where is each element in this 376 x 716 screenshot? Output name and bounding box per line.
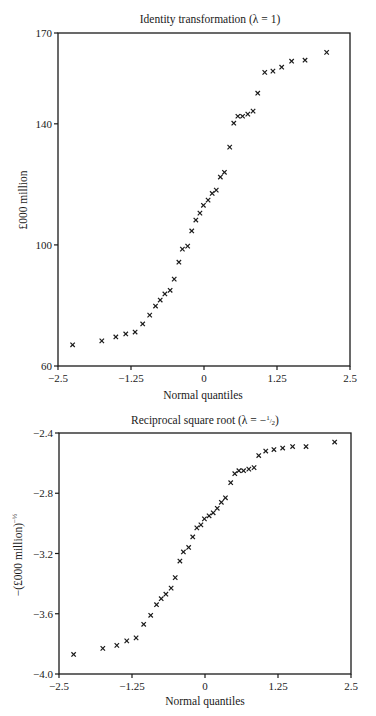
y-tick-label: −3.6 [33, 608, 53, 620]
data-point-x-marker [195, 526, 199, 530]
data-point-x-marker [115, 643, 119, 647]
data-point-x-marker [159, 596, 163, 600]
data-point-x-marker [148, 613, 152, 617]
data-point-x-marker [101, 646, 105, 650]
data-point-x-marker [186, 545, 190, 549]
data-point-x-marker [134, 636, 138, 640]
data-point-x-marker [252, 465, 256, 469]
data-point-x-marker [169, 586, 173, 590]
data-point-x-marker [158, 298, 162, 302]
data-point-x-marker [201, 203, 205, 207]
x-tick-label: −1.25 [119, 680, 145, 692]
data-point-x-marker [153, 304, 157, 308]
data-point-x-marker [133, 330, 137, 334]
y-tick-label: −2.8 [33, 487, 53, 499]
data-point-x-marker [180, 247, 184, 251]
data-point-x-marker [279, 65, 283, 69]
data-point-x-marker [289, 59, 293, 63]
data-point-x-marker [218, 175, 222, 179]
figure: Identity transformation (λ = 1) 60100140… [0, 0, 376, 716]
data-point-x-marker [177, 260, 181, 264]
data-point-x-marker [191, 535, 195, 539]
data-point-x-marker [228, 481, 232, 485]
data-point-x-marker [173, 575, 177, 579]
x-tick-label: 1.25 [267, 372, 287, 384]
chart-reciprocal-sqrt: Reciprocal square root (λ = −1/2) −4.0−3… [11, 414, 358, 708]
data-point-x-marker [264, 449, 268, 453]
x-tick-label: −2.5 [48, 372, 68, 384]
data-point-x-marker [271, 69, 275, 73]
plot-frame [59, 433, 351, 674]
x-axis-ticks: −2.5−1.2501.252.5 [49, 674, 358, 692]
y-tick-label: −3.2 [33, 548, 53, 560]
data-point-x-marker [232, 121, 236, 125]
data-point-x-marker [215, 506, 219, 510]
data-point-x-marker [141, 622, 145, 626]
y-axis-label: £000 million [17, 170, 29, 229]
data-point-x-marker [163, 292, 167, 296]
data-point-x-marker [140, 322, 144, 326]
data-point-x-marker [324, 50, 328, 54]
data-point-x-marker [207, 514, 211, 518]
data-point-x-marker [303, 58, 307, 62]
data-point-x-marker [124, 332, 128, 336]
data-point-x-marker [147, 313, 151, 317]
data-point-x-marker [247, 467, 251, 471]
data-points [71, 440, 336, 657]
data-point-x-marker [227, 145, 231, 149]
data-point-x-marker [214, 188, 218, 192]
data-point-x-marker [70, 343, 74, 347]
chart-identity: Identity transformation (λ = 1) 60100140… [17, 13, 357, 402]
data-point-x-marker [290, 444, 294, 448]
data-point-x-marker [240, 114, 244, 118]
data-point-x-marker [164, 592, 168, 596]
data-point-x-marker [256, 91, 260, 95]
chart-title: Reciprocal square root (λ = −1/2) [131, 414, 279, 427]
data-point-x-marker [178, 559, 182, 563]
x-tick-label: 0 [202, 680, 208, 692]
data-point-x-marker [257, 453, 261, 457]
data-point-x-marker [211, 511, 215, 515]
data-point-x-marker [219, 500, 223, 504]
y-tick-label: −4.0 [33, 668, 53, 680]
data-point-x-marker [263, 70, 267, 74]
data-point-x-marker [237, 468, 241, 472]
data-points [70, 50, 328, 347]
data-point-x-marker [198, 211, 202, 215]
x-tick-label: 1.25 [268, 680, 288, 692]
data-point-x-marker [222, 170, 226, 174]
x-tick-label: 2.5 [343, 372, 357, 384]
y-tick-label: −2.4 [33, 427, 53, 439]
x-axis-label: Normal quantiles [163, 389, 243, 402]
y-tick-label: 140 [36, 118, 53, 130]
data-point-x-marker [233, 471, 237, 475]
data-point-x-marker [114, 335, 118, 339]
data-point-x-marker [190, 229, 194, 233]
data-point-x-marker [206, 198, 210, 202]
chart-title: Identity transformation (λ = 1) [140, 13, 281, 26]
x-tick-label: 0 [201, 372, 207, 384]
data-point-x-marker [154, 603, 158, 607]
y-axis-ticks: −4.0−3.6−3.2−2.8−2.4 [33, 427, 59, 680]
data-point-x-marker [125, 639, 129, 643]
y-tick-label: 170 [36, 27, 53, 39]
data-point-x-marker [71, 652, 75, 656]
data-point-x-marker [332, 440, 336, 444]
x-axis-ticks: −2.5−1.2501.252.5 [48, 366, 357, 384]
data-point-x-marker [185, 244, 189, 248]
data-point-x-marker [241, 468, 245, 472]
data-point-x-marker [251, 109, 255, 113]
y-axis-ticks: 60100140170 [36, 27, 59, 372]
y-tick-label: 60 [41, 360, 53, 372]
data-point-x-marker [202, 517, 206, 521]
x-tick-label: 2.5 [344, 680, 358, 692]
data-point-x-marker [168, 288, 172, 292]
data-point-x-marker [304, 444, 308, 448]
data-point-x-marker [100, 339, 104, 343]
data-point-x-marker [199, 523, 203, 527]
data-point-x-marker [181, 550, 185, 554]
data-point-x-marker [236, 114, 240, 118]
data-point-x-marker [280, 446, 284, 450]
x-tick-label: −1.25 [118, 372, 144, 384]
data-point-x-marker [194, 218, 198, 222]
